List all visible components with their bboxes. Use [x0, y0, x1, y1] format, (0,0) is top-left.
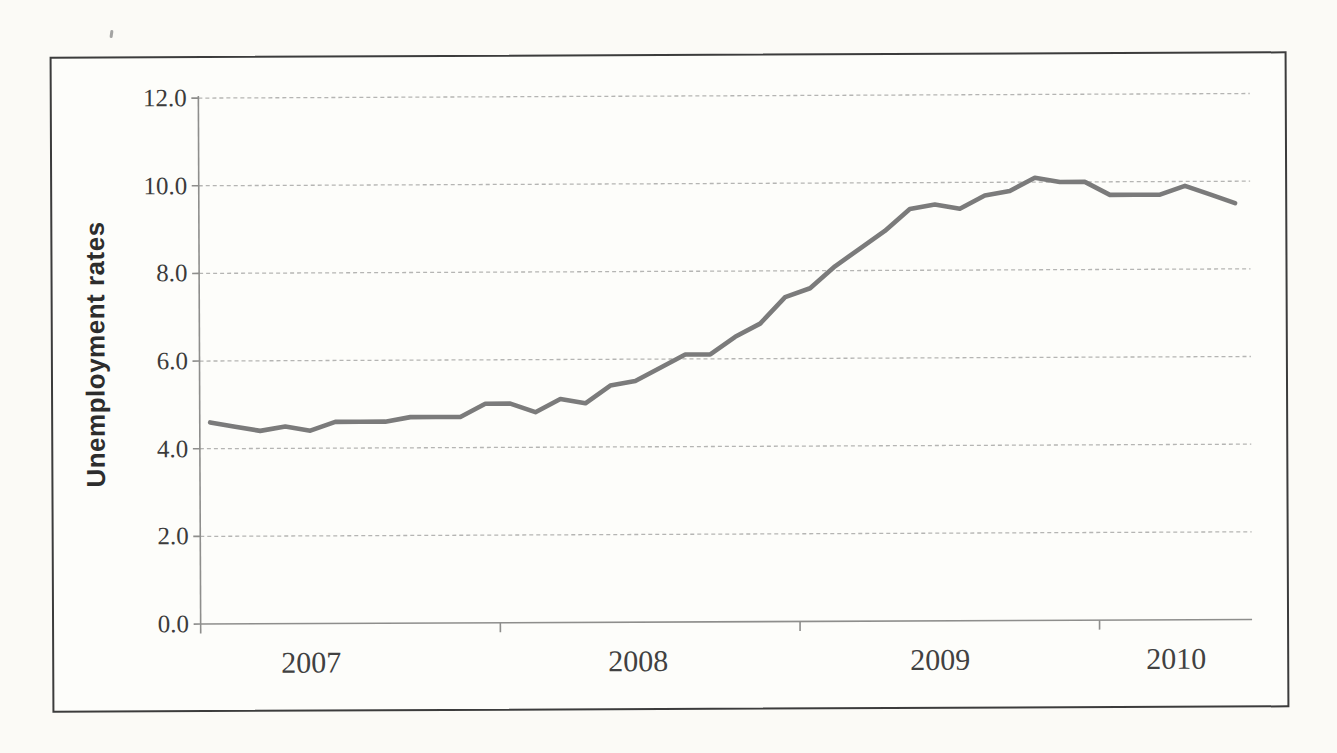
gridline — [200, 444, 1251, 449]
y-tick-label: 8.0 — [107, 260, 187, 286]
unemployment-line-chart — [0, 0, 1337, 753]
y-axis-line — [198, 96, 200, 633]
unemployment-rate-series-line — [209, 177, 1236, 431]
y-tick-label: 2.0 — [109, 523, 189, 549]
y-tick-label: 4.0 — [108, 436, 188, 462]
chart-area: Unemployment rates 12.010.08.06.04.02.00… — [0, 0, 1337, 753]
y-tick-label: 6.0 — [108, 348, 188, 374]
y-tick-label: 10.0 — [107, 173, 187, 199]
y-tick-label: 12.0 — [107, 85, 187, 111]
x-year-label: 2010 — [1106, 643, 1246, 674]
y-tick-label: 0.0 — [109, 611, 189, 637]
gridline — [200, 356, 1251, 361]
x-year-label: 2008 — [568, 646, 708, 677]
gridline — [198, 94, 1249, 99]
gridline — [200, 532, 1251, 537]
x-year-label: 2009 — [870, 645, 1010, 676]
x-axis-line — [201, 619, 1252, 624]
gridline — [199, 269, 1250, 274]
scanned-page: { "figure": { "y_axis_title": "Unemploym… — [0, 0, 1337, 753]
chart-frame: Unemployment rates 12.010.08.06.04.02.00… — [50, 51, 1290, 712]
x-year-label: 2007 — [241, 647, 381, 678]
